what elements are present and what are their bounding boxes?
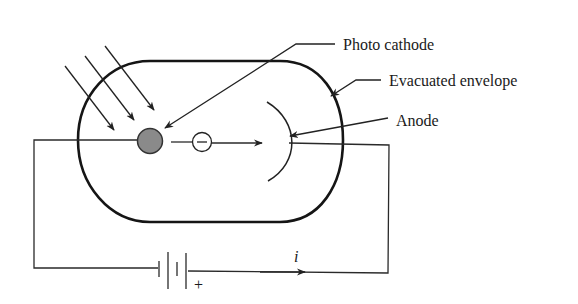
wire-anode-right <box>188 143 389 273</box>
light-ray-3 <box>105 46 154 110</box>
electron <box>193 133 212 152</box>
phototube-diagram: i + Photo cathode Evacuated envelope Ano… <box>0 0 578 304</box>
photo-cathode <box>138 129 163 154</box>
leader-anode <box>290 118 388 136</box>
circuit-wires <box>34 140 389 273</box>
leader-evacuated-envelope <box>331 80 381 96</box>
label-anode: Anode <box>396 112 439 129</box>
label-evacuated-envelope: Evacuated envelope <box>389 72 517 90</box>
battery: + <box>159 252 203 293</box>
anode <box>267 102 292 181</box>
incident-light-rays <box>65 46 154 130</box>
wire-cathode-left <box>34 140 158 268</box>
label-photo-cathode: Photo cathode <box>343 36 434 53</box>
leader-photo-cathode <box>165 44 335 128</box>
battery-positive-label: + <box>194 276 203 293</box>
current-label: i <box>294 248 298 265</box>
